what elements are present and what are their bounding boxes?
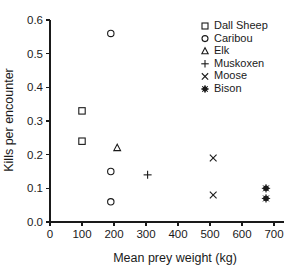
y-tick-label: 0.1 (27, 182, 43, 194)
plot-canvas: 0.00.10.20.30.40.50.6 010020030040050060… (0, 0, 307, 270)
chart-legend: Dall SheepCaribouElkMuskoxenMooseBison (201, 19, 268, 94)
legend-marker-moose (202, 73, 208, 79)
x-tick-label: 200 (104, 228, 123, 240)
legend-label-bison: Bison (214, 82, 242, 94)
x-tick-label: 600 (232, 228, 251, 240)
data-point-bison (262, 194, 270, 202)
legend-marker-bison (201, 85, 209, 93)
y-tick-label: 0.3 (27, 115, 43, 127)
legend-label-muskoxen: Muskoxen (214, 57, 264, 69)
scatter-plot-figure: 0.00.10.20.30.40.50.6 010020030040050060… (0, 0, 307, 270)
y-tick-label: 0.4 (27, 81, 44, 93)
x-axis-ticks: 0100200300400500600700 (47, 222, 284, 240)
data-point-caribou (108, 199, 114, 205)
y-tick-label: 0.0 (27, 216, 43, 228)
legend-marker-dall-sheep (202, 23, 208, 29)
y-axis-ticks: 0.00.10.20.30.40.50.6 (27, 14, 50, 228)
legend-label-moose: Moose (214, 69, 247, 81)
x-tick-label: 300 (136, 228, 155, 240)
data-point-moose (210, 192, 217, 199)
legend-marker-muskoxen (201, 60, 209, 68)
data-point-moose (210, 155, 217, 162)
data-point-bison (262, 184, 270, 192)
x-tick-label: 700 (264, 228, 283, 240)
x-tick-label: 500 (200, 228, 219, 240)
y-tick-label: 0.5 (27, 48, 43, 60)
x-tick-label: 100 (72, 228, 91, 240)
x-tick-label: 0 (47, 228, 53, 240)
data-point-caribou (108, 168, 114, 174)
data-point-dall-sheep (79, 108, 85, 114)
legend-marker-elk (202, 48, 208, 54)
legend-label-caribou: Caribou (214, 32, 253, 44)
legend-label-elk: Elk (214, 44, 230, 56)
x-tick-label: 400 (168, 228, 187, 240)
legend-marker-caribou (202, 36, 208, 42)
y-axis-title: Kills per encounter (2, 68, 16, 172)
data-point-dall-sheep (79, 138, 85, 144)
legend-label-dall-sheep: Dall Sheep (214, 19, 268, 31)
data-point-caribou (108, 30, 114, 36)
data-point-elk (114, 144, 121, 150)
data-point-muskoxen (144, 171, 152, 179)
y-tick-label: 0.6 (27, 14, 43, 26)
x-axis-title: Mean prey weight (kg) (113, 251, 237, 265)
y-tick-label: 0.2 (27, 149, 43, 161)
